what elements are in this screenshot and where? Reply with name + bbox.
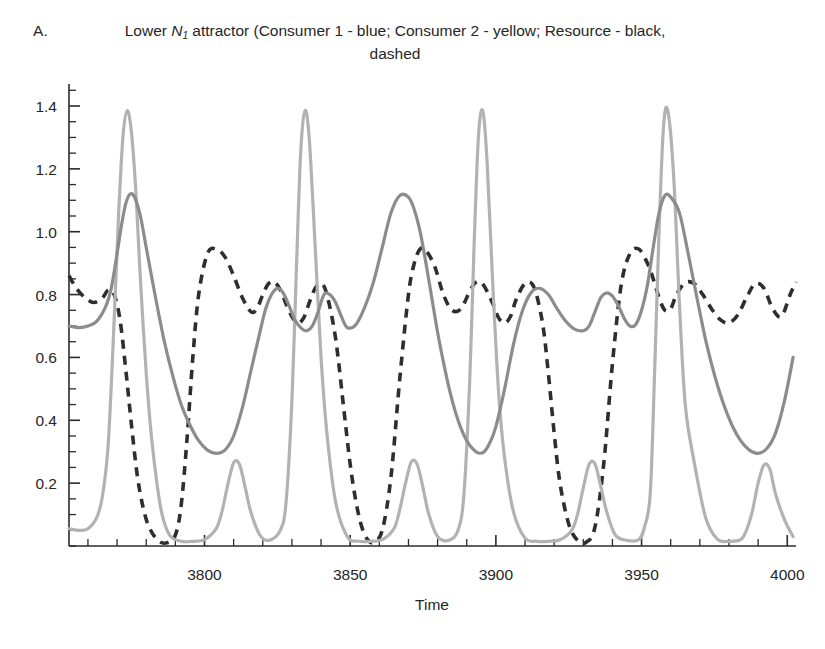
y-tick-label: 1.0 xyxy=(35,224,57,241)
y-tick-label: 1.4 xyxy=(35,98,57,115)
line-chart-svg: 0.20.40.60.81.01.21.4 380038503900395040… xyxy=(0,0,825,649)
x-tick-label: 3850 xyxy=(333,566,368,583)
x-axis-title: Time xyxy=(415,596,449,613)
y-tick-marks xyxy=(69,90,80,546)
figure-panel: A. Lower N1 attractor (Consumer 1 - blue… xyxy=(0,0,825,649)
series-group xyxy=(69,107,796,543)
y-tick-label: 0.2 xyxy=(35,475,57,492)
x-tick-label: 3950 xyxy=(624,566,659,583)
y-tick-labels: 0.20.40.60.81.01.21.4 xyxy=(35,98,57,492)
y-tick-label: 0.6 xyxy=(35,349,57,366)
x-tick-label: 3900 xyxy=(479,566,514,583)
x-tick-label: 4000 xyxy=(770,566,805,583)
x-tick-label: 3800 xyxy=(187,566,222,583)
y-axis-group: 0.20.40.60.81.01.21.4 xyxy=(35,84,80,546)
y-tick-label: 1.2 xyxy=(35,161,57,178)
series-consumer-2-line xyxy=(69,107,793,542)
chart-area: 0.20.40.60.81.01.21.4 380038503900395040… xyxy=(0,0,825,649)
series-consumer-1-line xyxy=(69,194,793,454)
y-tick-label: 0.4 xyxy=(35,412,57,429)
y-tick-label: 0.8 xyxy=(35,287,57,304)
x-tick-labels: 38003850390039504000 xyxy=(187,566,805,583)
